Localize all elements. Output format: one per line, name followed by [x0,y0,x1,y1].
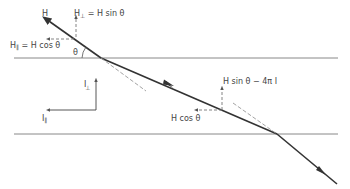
h-label: H [42,9,48,18]
i-perp-label: I⊥ [84,80,91,91]
field-refraction-diagram: H H⊥ = H sin θ H∥ = H cos θ θ I⊥ I∥ H si… [0,0,350,189]
transmitted-field-ray [277,134,337,184]
h-sin-minus-label: H sin θ − 4π I [223,77,277,86]
i-par-label: I∥ [42,114,47,124]
theta-angle-arc [82,47,86,58]
h-perp-label: H⊥ = H sin θ [74,9,125,19]
h-cos-lower-label: H cos θ [171,114,201,123]
theta-label: θ [73,48,78,57]
h-par-label: H∥ = H cos θ [10,41,60,51]
